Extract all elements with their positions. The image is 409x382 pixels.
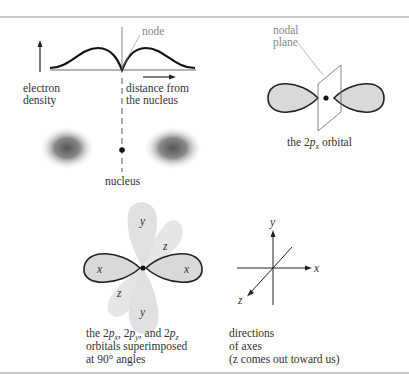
nucleus-dot-icon bbox=[140, 265, 145, 270]
electron-cloud-right bbox=[143, 126, 203, 170]
p-x-orbital bbox=[268, 43, 384, 131]
x-arrow-icon bbox=[305, 266, 312, 271]
lobe-label-z-top: z bbox=[163, 240, 167, 252]
diagram-canvas bbox=[0, 0, 409, 382]
p-x-caption: the 2px orbital bbox=[287, 136, 352, 153]
lobe-label-x-right: x bbox=[184, 263, 189, 275]
density-plot bbox=[38, 27, 204, 172]
axis-label-y: y bbox=[270, 216, 275, 228]
lobe-label-x-left: x bbox=[97, 263, 102, 275]
axis-label-z: z bbox=[238, 294, 242, 306]
node-leader-line bbox=[122, 35, 140, 68]
lobe-label-y-bottom: y bbox=[140, 306, 145, 318]
x-axis-label-2: the nucleus bbox=[126, 94, 178, 106]
axes-diagram bbox=[237, 230, 312, 305]
z-arrow-icon bbox=[247, 290, 254, 297]
nucleus-label: nucleus bbox=[105, 175, 140, 187]
axes-caption-3: (z comes out toward us) bbox=[229, 353, 340, 365]
nucleus-dot-icon bbox=[119, 147, 125, 153]
y-arrow-icon bbox=[271, 230, 276, 237]
y-axis-label-2: density bbox=[23, 94, 56, 106]
axes-caption-1: directions bbox=[229, 327, 274, 339]
node-label: node bbox=[142, 25, 164, 37]
y-axis-label-1: electron bbox=[23, 82, 60, 94]
electron-cloud-left bbox=[39, 126, 95, 170]
superimposed-caption-2: orbitals superimposed bbox=[86, 340, 187, 352]
nodal-label-1: nodal bbox=[273, 24, 299, 36]
nodal-label-2: plane bbox=[273, 36, 298, 48]
axis-label-x: x bbox=[314, 262, 319, 274]
superimposed-caption-3: at 90° angles bbox=[86, 353, 146, 365]
nucleus-dot-icon bbox=[323, 95, 328, 100]
lobe-label-y-top: y bbox=[140, 215, 145, 227]
lobe-label-z-bottom: z bbox=[117, 287, 121, 299]
x-axis-label-1: distance from bbox=[126, 82, 189, 94]
axes-caption-2: of axes bbox=[229, 340, 262, 352]
